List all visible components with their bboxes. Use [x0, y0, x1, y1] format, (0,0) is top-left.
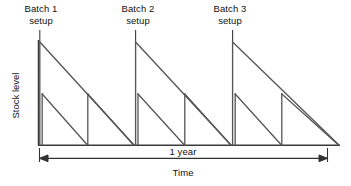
batch-sawtooth-series: [40, 42, 339, 145]
y-axis-label: Stock level: [10, 56, 21, 136]
order-fall-5: [235, 94, 281, 145]
batch-fall-3: [233, 42, 339, 145]
order-fall-4: [185, 94, 231, 145]
x-axis-label: Time: [141, 167, 225, 179]
axes-group: [38, 40, 340, 146]
batch-3-setup-label: Batch 3 setup: [188, 3, 272, 26]
order-fall-2: [88, 94, 134, 145]
batch-1-setup-label: Batch 1 setup: [0, 3, 83, 26]
order-fall-6: [282, 94, 339, 145]
dimension-arrow-left: [40, 155, 49, 162]
order-fall-1: [42, 94, 87, 145]
order-fall-3: [138, 94, 184, 145]
dimension-arrow-right: [319, 155, 328, 162]
leader-lines-group: [40, 30, 233, 41]
one-year-label: 1 year: [141, 146, 225, 158]
diagram-canvas: [0, 0, 351, 186]
batch-2-setup-label: Batch 2 setup: [96, 3, 180, 26]
stock-level-diagram: Batch 1 setup Batch 2 setup Batch 3 setu…: [0, 0, 351, 186]
